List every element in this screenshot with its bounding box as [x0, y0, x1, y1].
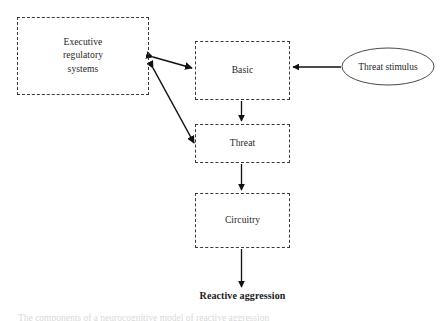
- figure-caption: The components of a neurocognitive model…: [18, 313, 426, 321]
- outcome-reactive-aggression: Reactive aggression: [160, 290, 325, 301]
- node-circuitry-label: Circuitry: [225, 214, 260, 228]
- ellipse-threat-stimulus: [342, 48, 434, 85]
- node-circuitry[interactable]: Circuitry: [195, 193, 290, 248]
- node-basic[interactable]: Basic: [195, 41, 290, 100]
- node-executive-regulatory-systems[interactable]: Executive regulatory systems: [17, 17, 149, 95]
- connector-executive-to-threat: [153, 68, 194, 143]
- node-executive-label: Executive regulatory systems: [63, 36, 103, 77]
- node-basic-label: Basic: [232, 64, 254, 78]
- connector-executive-to-basic: [153, 57, 192, 68]
- node-threat-label: Threat: [230, 137, 255, 151]
- figure-canvas: Executive regulatory systems Basic Threa…: [0, 0, 444, 321]
- node-threat[interactable]: Threat: [195, 124, 290, 163]
